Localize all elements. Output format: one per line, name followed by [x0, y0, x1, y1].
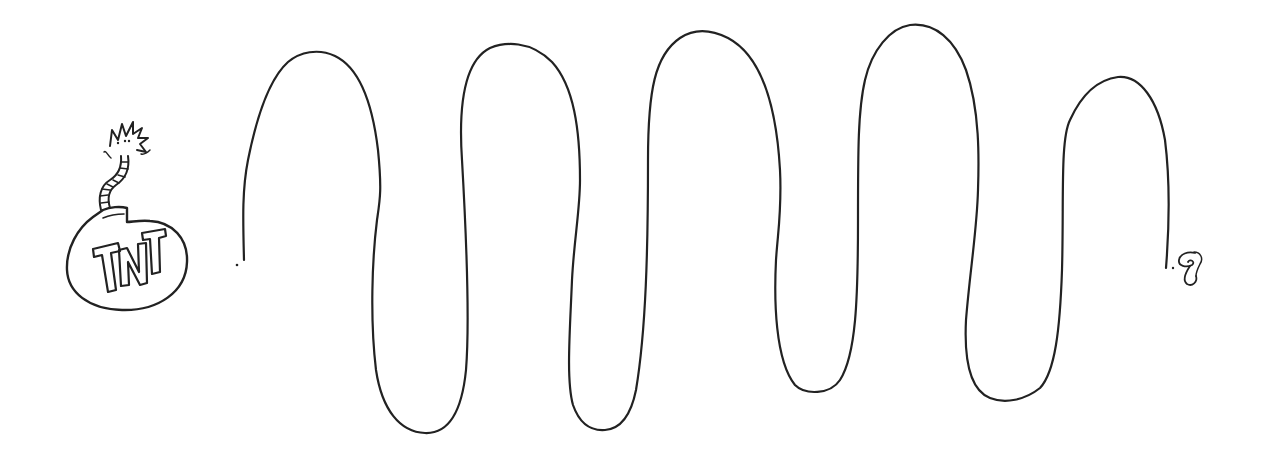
drawing-canvas: TNT: [0, 0, 1263, 462]
bomb-icon: [67, 207, 187, 310]
tnt-letters-icon: [93, 229, 166, 292]
bomb-fuse-rope-icon: [100, 156, 129, 210]
fuse-spark-icon: [104, 122, 150, 158]
long-wavy-fuse: [243, 25, 1168, 433]
fuse-end-spark-icon: [1172, 252, 1202, 285]
fuse-start-dot: [236, 264, 239, 267]
